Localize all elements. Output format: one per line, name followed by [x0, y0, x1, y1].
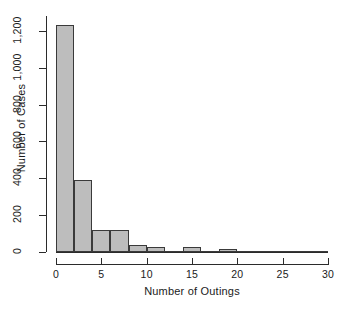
x-axis-tick-label: 10	[132, 268, 162, 280]
histogram-bar	[74, 180, 92, 252]
y-axis-tick	[39, 105, 46, 106]
x-axis-tick-label: 15	[177, 268, 207, 280]
y-axis-tick-label: 600	[11, 123, 23, 157]
y-axis-tick-label: 400	[11, 160, 23, 194]
x-axis-tick	[192, 258, 193, 265]
y-axis-tick	[39, 215, 46, 216]
histogram-bar	[129, 245, 147, 252]
plot-area	[56, 16, 328, 252]
y-axis-tick-label: 800	[11, 87, 23, 121]
y-axis-tick	[39, 252, 46, 253]
plot-baseline	[56, 252, 328, 253]
y-axis-tick-label: 1,200	[11, 13, 23, 47]
y-axis-line	[46, 16, 47, 252]
x-axis-tick	[328, 258, 329, 265]
histogram-bar	[56, 25, 74, 252]
x-axis-title: Number of Outings	[56, 285, 328, 297]
x-axis-tick	[283, 258, 284, 265]
x-axis-tick	[56, 258, 57, 265]
y-axis-tick	[39, 31, 46, 32]
x-axis-tick-label: 25	[268, 268, 298, 280]
histogram-figure: Number of Outings Number of Cases 051015…	[0, 0, 344, 310]
x-axis-tick-label: 0	[41, 268, 71, 280]
histogram-bar	[110, 230, 128, 252]
x-axis-tick-label: 30	[313, 268, 343, 280]
x-axis-tick	[237, 258, 238, 265]
y-axis-tick	[39, 178, 46, 179]
x-axis-tick	[147, 258, 148, 265]
x-axis-tick-label: 20	[222, 268, 252, 280]
y-axis-tick-label: 200	[11, 197, 23, 231]
y-axis-tick-label: 1,000	[11, 50, 23, 84]
x-axis-tick-label: 5	[86, 268, 116, 280]
y-axis-tick-label: 0	[11, 234, 23, 268]
x-axis-tick	[101, 258, 102, 265]
y-axis-tick	[39, 68, 46, 69]
y-axis-tick	[39, 141, 46, 142]
histogram-bar	[92, 230, 110, 252]
